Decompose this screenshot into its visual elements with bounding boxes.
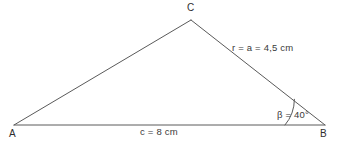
triangle-drawing bbox=[0, 0, 341, 147]
vertex-label-b: B bbox=[320, 128, 327, 139]
side-a-label: r = a = 4,5 cm bbox=[232, 42, 293, 53]
side-c-label: c = 8 cm bbox=[140, 126, 178, 137]
side-b-line bbox=[14, 20, 191, 125]
vertex-label-c: C bbox=[187, 2, 194, 13]
vertex-label-a: A bbox=[9, 128, 16, 139]
angle-beta-label: β = 40° bbox=[277, 109, 309, 120]
triangle-diagram: A B C r = a = 4,5 cm c = 8 cm β = 40° bbox=[0, 0, 341, 147]
